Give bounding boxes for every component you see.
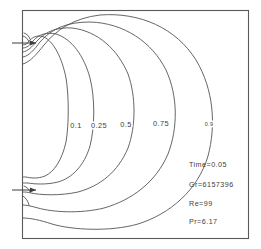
contour-plot-figure: 0.1 0.25 0.5 0.75 0.9 Time=0.05 Gr=61573… [0,0,261,249]
contour-label-0-1: 0.1 [70,121,81,130]
contour-label-0-75: 0.75 [153,119,169,128]
contour-labels: 0.1 0.25 0.5 0.75 0.9 [70,119,213,130]
contour-line-0-9 [23,15,212,230]
plot-frame [23,11,249,239]
arrowhead-lower [30,188,36,193]
contour-label-0-5: 0.5 [120,120,131,129]
contour-hook-bottom-outer [23,196,29,205]
contour-plot-svg: 0.1 0.25 0.5 0.75 0.9 Time=0.05 Gr=61573… [0,0,261,249]
contour-label-0-25: 0.25 [91,121,107,130]
annotation-prandtl: Pr=6.17 [189,217,218,226]
contour-line-0-5 [23,28,134,195]
contour-hook-bottom-inner [24,186,30,192]
contour-line-0-1 [23,36,68,178]
contour-line-0-25 [23,33,94,184]
contour-hook-top-outer [23,36,29,42]
annotation-time: Time=0.05 [189,160,227,169]
annotation-grashof: Gr=6157396 [189,180,234,189]
parameter-annotations: Time=0.05 Gr=6157396 Re=99 Pr=6.17 [189,160,234,226]
contour-label-0-9: 0.9 [205,121,213,127]
annotation-reynolds: Re=99 [189,199,213,208]
